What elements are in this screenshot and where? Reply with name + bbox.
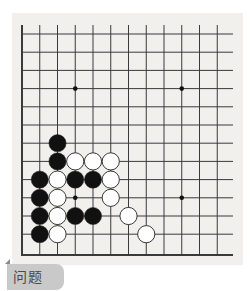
white-stone[interactable]	[84, 153, 101, 170]
white-stone[interactable]	[49, 189, 66, 206]
black-stone[interactable]	[31, 226, 48, 243]
white-stone[interactable]	[102, 171, 119, 188]
white-stone[interactable]	[102, 153, 119, 170]
white-stone[interactable]	[102, 189, 119, 206]
black-stone[interactable]	[49, 135, 66, 152]
white-stone[interactable]	[120, 207, 137, 224]
black-stone[interactable]	[49, 153, 66, 170]
white-stone[interactable]	[49, 226, 66, 243]
problem-label: 问题 51	[7, 264, 64, 290]
black-stone[interactable]	[84, 171, 101, 188]
white-stone[interactable]	[49, 207, 66, 224]
black-stone[interactable]	[84, 207, 101, 224]
white-stone[interactable]	[49, 171, 66, 188]
black-stone[interactable]	[67, 207, 84, 224]
star-point	[73, 86, 78, 91]
star-point	[179, 86, 184, 91]
black-stone[interactable]	[31, 189, 48, 206]
star-point	[73, 196, 78, 201]
black-stone[interactable]	[31, 207, 48, 224]
go-board-grid[interactable]	[0, 0, 250, 291]
white-stone[interactable]	[67, 153, 84, 170]
star-point	[179, 196, 184, 201]
black-stone[interactable]	[67, 171, 84, 188]
black-stone[interactable]	[31, 171, 48, 188]
white-stone[interactable]	[138, 226, 155, 243]
go-board[interactable]	[12, 13, 243, 265]
